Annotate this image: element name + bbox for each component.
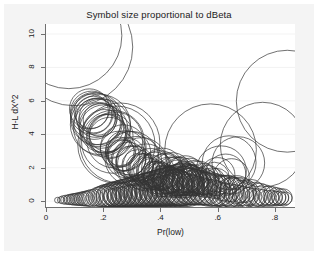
y-tick-mark <box>41 168 45 169</box>
bubble-marker <box>46 24 133 106</box>
x-tick-mark <box>46 208 47 212</box>
chart-title: Symbol size proportional to dBeta <box>0 9 318 20</box>
bubble-marker <box>46 24 122 89</box>
y-tick-label: 6 <box>27 93 36 107</box>
x-tick-label: .8 <box>265 213 285 222</box>
bubble-marker <box>269 191 283 205</box>
y-tick-mark <box>41 101 45 102</box>
y-tick-label: 4 <box>27 127 36 141</box>
scatter-plot-svg <box>46 24 295 207</box>
chart-screenshot: Symbol size proportional to dBeta 024681… <box>0 0 318 255</box>
x-tick-label: 0 <box>36 213 56 222</box>
y-tick-label: 8 <box>27 60 36 74</box>
y-tick-mark <box>41 34 45 35</box>
y-tick-mark <box>41 134 45 135</box>
y-tick-label: 0 <box>27 194 36 208</box>
x-tick-mark <box>275 208 276 212</box>
y-tick-label: 10 <box>27 27 36 41</box>
y-tick-mark <box>41 67 45 68</box>
x-tick-label: .6 <box>208 213 228 222</box>
x-tick-mark <box>160 208 161 212</box>
plot-region <box>46 24 295 207</box>
y-tick-label: 2 <box>27 160 36 174</box>
bubble-series <box>46 24 295 207</box>
x-axis-title: Pr(low) <box>46 227 295 237</box>
x-tick-mark <box>103 208 104 212</box>
x-tick-mark <box>218 208 219 212</box>
y-axis-line <box>45 24 46 208</box>
y-axis-title: H-L dX^2 <box>10 77 20 147</box>
x-tick-label: .2 <box>93 213 113 222</box>
x-axis-line <box>45 207 295 208</box>
bubble-marker <box>236 50 295 152</box>
x-tick-label: .4 <box>150 213 170 222</box>
y-tick-mark <box>41 201 45 202</box>
